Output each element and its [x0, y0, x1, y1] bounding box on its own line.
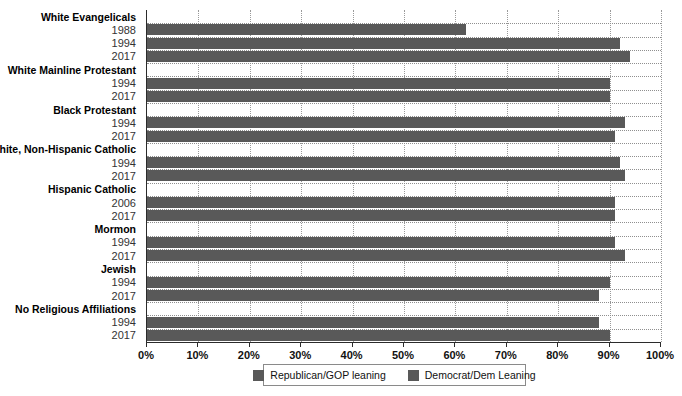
bar-chart: White Evangelicals198819942017White Main…: [0, 0, 682, 396]
x-axis-tick-label: 100%: [646, 349, 674, 361]
gridline-vertical: [661, 10, 662, 342]
category-label: Jewish: [101, 264, 136, 275]
bar: [147, 237, 615, 248]
legend-label: Republican/GOP leaning: [270, 369, 385, 381]
year-label: 2017: [112, 291, 136, 302]
x-axis-tick-label: 40%: [341, 349, 363, 361]
bar-row: [147, 50, 661, 63]
x-axis-tick: [249, 342, 250, 347]
bar: [147, 250, 625, 261]
x-axis-tick: [557, 342, 558, 347]
x-axis-tick: [506, 342, 507, 347]
year-label: 1988: [112, 25, 136, 36]
x-axis-tick-label: 70%: [495, 349, 517, 361]
category-label: Black Protestant: [53, 105, 136, 116]
bar: [147, 78, 610, 89]
bar-row: [147, 23, 661, 36]
bar-row: [147, 37, 661, 50]
x-axis-tick-label: 60%: [443, 349, 465, 361]
year-label: 1994: [112, 277, 136, 288]
bar: [147, 91, 610, 102]
legend-swatch-icon: [408, 370, 419, 381]
year-label: 2017: [112, 51, 136, 62]
bar-row: [147, 196, 661, 209]
x-axis-tick-label: 10%: [186, 349, 208, 361]
category-label: Mormon: [95, 224, 136, 235]
category-label: White, Non-Hispanic Catholic: [0, 144, 136, 155]
plot-area: [146, 10, 661, 343]
bar: [147, 197, 615, 208]
year-label: 2017: [112, 330, 136, 341]
x-axis-tick: [609, 342, 610, 347]
bar: [147, 24, 466, 35]
bar-row: [147, 249, 661, 262]
bar-row: [147, 289, 661, 302]
bar: [147, 330, 610, 341]
year-label: 2017: [112, 171, 136, 182]
bar: [147, 38, 620, 49]
year-label: 2017: [112, 251, 136, 262]
category-row: [147, 63, 661, 76]
bar-row: [147, 209, 661, 222]
category-label: No Religious Affiliations: [15, 304, 136, 315]
x-axis-tick-label: 90%: [598, 349, 620, 361]
bar-rows: [147, 10, 661, 342]
category-label: White Mainline Protestant: [8, 65, 136, 76]
bar: [147, 157, 620, 168]
bar: [147, 277, 610, 288]
x-axis-tick: [660, 342, 661, 347]
legend: Republican/GOP leaningDemocrat/Dem Leani…: [263, 364, 526, 386]
category-row: [147, 103, 661, 116]
category-label: White Evangelicals: [41, 12, 136, 23]
x-axis-tick: [197, 342, 198, 347]
legend-item[interactable]: Republican/GOP leaning: [253, 369, 385, 381]
category-row: [147, 222, 661, 235]
bar-row: [147, 76, 661, 89]
x-axis-tick-label: 50%: [392, 349, 414, 361]
x-axis-tick: [352, 342, 353, 347]
year-label: 1994: [112, 158, 136, 169]
legend-swatch-icon: [253, 370, 264, 381]
y-axis-labels: White Evangelicals198819942017White Main…: [0, 10, 142, 342]
x-axis-tick: [454, 342, 455, 347]
year-label: 1994: [112, 317, 136, 328]
category-row: [147, 183, 661, 196]
bar-row: [147, 116, 661, 129]
bar: [147, 117, 625, 128]
category-row: [147, 302, 661, 315]
legend-item[interactable]: Democrat/Dem Leaning: [408, 369, 536, 381]
year-label: 1994: [112, 237, 136, 248]
year-label: 2006: [112, 198, 136, 209]
bar-row: [147, 236, 661, 249]
year-label: 2017: [112, 211, 136, 222]
x-axis-tick-label: 20%: [238, 349, 260, 361]
x-axis-tick: [146, 342, 147, 347]
legend-label: Democrat/Dem Leaning: [425, 369, 536, 381]
bar: [147, 51, 630, 62]
bar-row: [147, 130, 661, 143]
bar: [147, 131, 615, 142]
year-label: 2017: [112, 91, 136, 102]
bar-row: [147, 329, 661, 342]
bar-row: [147, 90, 661, 103]
year-label: 2017: [112, 131, 136, 142]
x-axis-tick-label: 0%: [138, 349, 154, 361]
bar-row: [147, 276, 661, 289]
x-axis-tick: [403, 342, 404, 347]
x-axis-tick-label: 30%: [289, 349, 311, 361]
bar: [147, 210, 615, 221]
year-label: 1994: [112, 38, 136, 49]
bar-row: [147, 315, 661, 328]
bar: [147, 170, 625, 181]
x-axis-tick-label: 80%: [546, 349, 568, 361]
category-row: [147, 262, 661, 275]
category-label: Hispanic Catholic: [48, 184, 136, 195]
category-row: [147, 143, 661, 156]
bar: [147, 290, 599, 301]
year-label: 1994: [112, 78, 136, 89]
bar-row: [147, 156, 661, 169]
bar: [147, 317, 599, 328]
x-axis-tick: [300, 342, 301, 347]
year-label: 1994: [112, 118, 136, 129]
category-row: [147, 10, 661, 23]
